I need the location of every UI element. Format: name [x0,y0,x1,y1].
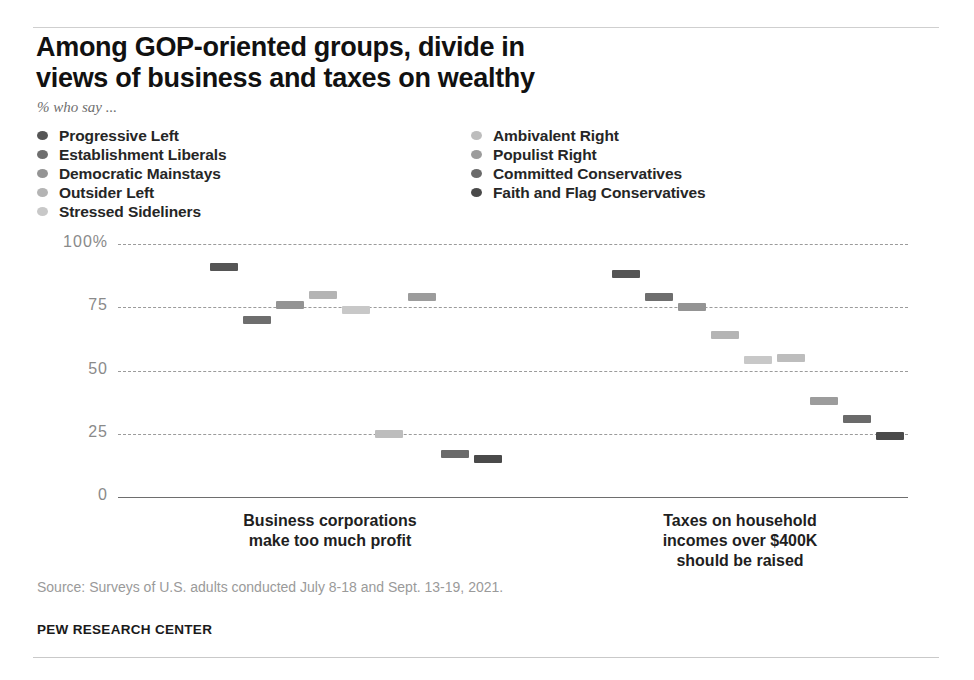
publisher-footer: PEW RESEARCH CENTER [37,622,212,637]
x-axis-label-line: should be raised [540,551,940,571]
data-point-marker [777,354,805,362]
x-axis-category-label: Taxes on householdincomes over $400Kshou… [540,511,940,570]
legend-marker-icon [471,150,482,159]
page-title: Among GOP-oriented groups, divide in vie… [36,32,916,95]
data-point-marker [210,263,238,271]
y-axis-tick-label: 0 [30,486,108,504]
legend-item-label: Populist Right [493,146,597,164]
data-point-marker [408,293,436,301]
data-point-marker [375,430,403,438]
data-point-marker [876,432,904,440]
legend-marker-icon [37,188,48,197]
chart-subtitle: % who say ... [37,99,117,116]
legend-item-label: Establishment Liberals [59,146,227,164]
y-axis-tick-label: 25 [30,423,108,441]
legend-item-label: Faith and Flag Conservatives [493,184,706,202]
data-point-marker [810,397,838,405]
legend-item[interactable]: Stressed Sideliners [37,202,227,221]
title-line-2: views of business and taxes on wealthy [36,63,916,94]
legend-item-label: Committed Conservatives [493,165,682,183]
top-divider [33,27,939,28]
data-point-marker [843,415,871,423]
legend-marker-icon [471,188,482,197]
y-axis-tick-label: 50 [30,360,108,378]
legend-item-label: Stressed Sideliners [59,203,201,221]
legend-marker-icon [37,207,48,216]
legend-marker-icon [471,169,482,178]
legend-column-left: Progressive LeftEstablishment LiberalsDe… [37,126,227,221]
legend-marker-icon [37,150,48,159]
data-point-marker [309,291,337,299]
legend-item[interactable]: Populist Right [471,145,706,164]
source-note: Source: Surveys of U.S. adults conducted… [37,578,927,597]
y-axis-tick-label: 100% [30,233,108,251]
gridline [118,434,908,435]
data-point-marker [342,306,370,314]
legend-item-label: Outsider Left [59,184,154,202]
x-axis-line [118,497,908,498]
x-axis-label-line: Taxes on household [540,511,940,531]
legend-item[interactable]: Democratic Mainstays [37,164,227,183]
legend-marker-icon [37,131,48,140]
data-point-marker [678,303,706,311]
legend-marker-icon [37,169,48,178]
infographic-page: Among GOP-oriented groups, divide in vie… [0,0,974,680]
legend-item[interactable]: Ambivalent Right [471,126,706,145]
data-point-marker [474,455,502,463]
legend-item-label: Progressive Left [59,127,179,145]
chart-legend: Progressive LeftEstablishment LiberalsDe… [37,126,937,222]
gridline [118,371,908,372]
legend-item-label: Democratic Mainstays [59,165,221,183]
data-point-marker [744,356,772,364]
legend-column-right: Ambivalent RightPopulist RightCommitted … [471,126,706,202]
data-point-marker [441,450,469,458]
legend-item[interactable]: Outsider Left [37,183,227,202]
legend-marker-icon [471,131,482,140]
x-axis-label-line: Business corporations [130,511,530,531]
bottom-divider [33,657,939,658]
data-point-marker [711,331,739,339]
legend-item[interactable]: Progressive Left [37,126,227,145]
data-point-marker [612,270,640,278]
title-line-1: Among GOP-oriented groups, divide in [36,32,916,63]
legend-item[interactable]: Committed Conservatives [471,164,706,183]
data-point-marker [276,301,304,309]
legend-item[interactable]: Establishment Liberals [37,145,227,164]
x-axis-category-label: Business corporationsmake too much profi… [130,511,530,551]
y-axis-tick-label: 75 [30,296,108,314]
legend-item[interactable]: Faith and Flag Conservatives [471,183,706,202]
data-point-marker [243,316,271,324]
data-point-marker [645,293,673,301]
gridline [118,244,908,245]
x-axis-label-line: incomes over $400K [540,531,940,551]
gridline [118,307,908,308]
x-axis-label-line: make too much profit [130,531,530,551]
legend-item-label: Ambivalent Right [493,127,619,145]
